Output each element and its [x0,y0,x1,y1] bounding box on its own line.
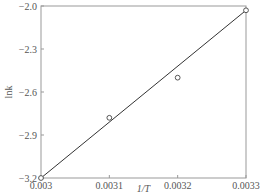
data-point [39,176,44,181]
x-tick-label: 0.0032 [164,180,192,191]
y-tick-label: −2.6 [19,87,37,98]
y-tick-label: −2.0 [19,1,37,12]
y-tick-label: −2.9 [19,130,37,141]
y-axis-label: lnk [3,86,14,99]
x-tick-label: 0.0033 [232,180,260,191]
data-point [244,8,249,13]
y-tick-label: −3.2 [19,173,37,184]
data-point [175,75,180,80]
y-tick-label: −2.3 [19,44,37,55]
plot-area: 0.0030.00310.00320.0033−2.0−2.3−2.6−2.9−… [0,0,263,195]
fit-line [41,10,246,178]
x-tick-label: 0.0031 [96,180,124,191]
x-axis-label: 1/T [137,183,152,194]
chart: 0.0030.00310.00320.0033−2.0−2.3−2.6−2.9−… [0,0,263,195]
data-point [107,115,112,120]
